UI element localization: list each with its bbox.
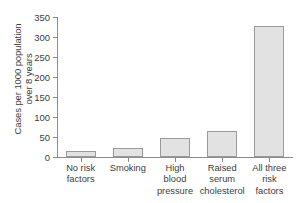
x-axis-label: Raisedserumcholesterol xyxy=(199,163,246,197)
x-axis-label-line: High xyxy=(151,163,198,174)
bar xyxy=(254,26,284,157)
y-axis-line xyxy=(57,17,58,158)
x-axis-label-line: factors xyxy=(57,174,104,185)
y-tick-mark xyxy=(53,77,57,78)
y-tick-label: 350 xyxy=(34,12,50,23)
plot-area: 050100150200250300350 xyxy=(57,17,293,157)
x-axis-label-line: blood xyxy=(151,174,198,185)
x-axis-label-line: Smoking xyxy=(104,163,151,174)
bar-chart: Cases per 1000 population over 8 years 0… xyxy=(0,0,298,203)
x-axis-label: Smoking xyxy=(104,163,151,174)
y-tick-mark xyxy=(53,37,57,38)
bar xyxy=(66,151,96,157)
bar xyxy=(160,138,190,157)
y-tick-label: 100 xyxy=(34,112,50,123)
x-axis-label: No riskfactors xyxy=(57,163,104,186)
x-axis-label-line: factors xyxy=(246,186,293,197)
x-axis-label: Highbloodpressure xyxy=(151,163,198,197)
y-tick-label: 200 xyxy=(34,72,50,83)
y-tick-label: 50 xyxy=(39,132,50,143)
x-tick-mark xyxy=(81,158,82,162)
y-tick-label: 250 xyxy=(34,52,50,63)
y-tick-mark xyxy=(53,57,57,58)
y-axis-title-line-1: Cases per 1000 population xyxy=(12,23,23,134)
y-axis-title-line-2: over 8 years xyxy=(23,53,34,104)
x-tick-mark xyxy=(175,158,176,162)
x-axis-label-line: Raised xyxy=(199,163,246,174)
bar xyxy=(207,131,237,157)
x-tick-mark xyxy=(222,158,223,162)
x-axis-label: All threeriskfactors xyxy=(246,163,293,197)
y-tick-mark xyxy=(53,157,57,158)
y-tick-label: 150 xyxy=(34,92,50,103)
y-tick-mark xyxy=(53,17,57,18)
x-axis-label-line: risk xyxy=(246,174,293,185)
x-axis-label-line: pressure xyxy=(151,186,198,197)
x-tick-mark xyxy=(269,158,270,162)
y-tick-mark xyxy=(53,137,57,138)
y-tick-mark xyxy=(53,117,57,118)
x-axis-label-line: All three xyxy=(246,163,293,174)
x-axis-label-line: No risk xyxy=(57,163,104,174)
y-tick-label: 300 xyxy=(34,32,50,43)
x-tick-mark xyxy=(128,158,129,162)
x-axis-labels: No riskfactorsSmokingHighbloodpressureRa… xyxy=(57,163,293,203)
y-tick-label: 0 xyxy=(45,152,50,163)
y-tick-mark xyxy=(53,97,57,98)
bar xyxy=(113,148,143,157)
x-axis-label-line: cholesterol xyxy=(199,186,246,197)
x-axis-label-line: serum xyxy=(199,174,246,185)
